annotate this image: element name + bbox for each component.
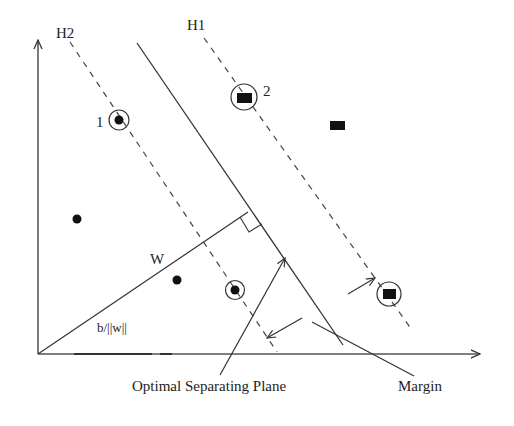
data-point-circle-5: [231, 286, 240, 295]
margin-pointer-line: [312, 322, 414, 376]
data-point-circle-4: [173, 276, 182, 285]
w-normal-vector: [38, 212, 248, 354]
data-point-square-6: [330, 121, 345, 130]
right-angle-marker: [240, 217, 262, 232]
point-2-label: 2: [263, 83, 271, 99]
data-point-square-2: [237, 93, 252, 103]
data-point-circle-3: [73, 215, 82, 224]
h2-label: H2: [56, 25, 74, 41]
h1-label: H1: [187, 17, 205, 33]
plane-pointer-arrow: [220, 258, 285, 375]
svm-diagram: H2 H1 1 2 W b/||w|| Optimal Separating P…: [0, 0, 514, 426]
circle-class-points: [73, 110, 245, 300]
bias-label: b/||w||: [97, 320, 127, 335]
axes: [38, 40, 480, 354]
margin-arrow-right: [348, 278, 375, 294]
data-point-circle-1: [115, 116, 124, 125]
w-label: W: [150, 251, 165, 267]
data-point-square-7: [383, 289, 396, 299]
h2-margin-line: [70, 42, 277, 352]
margin-arrow-left: [267, 318, 302, 338]
point-1-label: 1: [96, 114, 104, 130]
margin-label: Margin: [398, 378, 442, 394]
plane-label: Optimal Separating Plane: [132, 378, 286, 394]
